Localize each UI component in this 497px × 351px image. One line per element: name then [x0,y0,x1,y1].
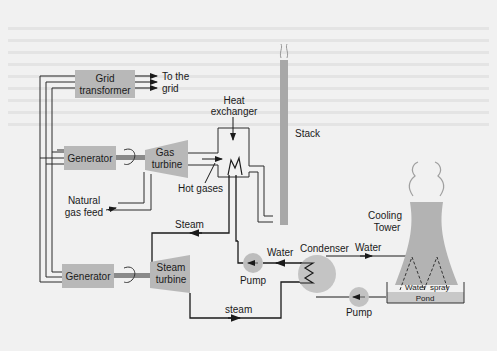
steam-plume-icon [409,162,444,196]
generator-top: Generator [64,146,116,170]
electrical-wires [40,76,75,282]
svg-text:turbine: turbine [152,159,183,170]
natural-gas-feed-label: Natural gas feed [65,195,103,218]
spray-label: spray [430,283,450,292]
cooling-tower: Cooling Tower [368,162,458,285]
svg-text:Heat: Heat [223,95,244,106]
water-label-left: Water [267,247,294,258]
steam-label-upper: Steam [175,219,204,230]
water-label-right: Water [355,242,382,253]
water-spray-label: Water [405,283,426,292]
svg-text:Tower: Tower [374,222,401,233]
svg-text:Pump: Pump [346,307,373,318]
svg-text:grid: grid [162,83,179,94]
condenser: Condenser [298,243,350,293]
svg-text:Pond: Pond [416,294,435,303]
natural-gas-feed-line [108,172,151,210]
svg-text:Condenser: Condenser [300,243,350,254]
svg-text:Grid: Grid [96,73,115,84]
shaft-top [116,155,146,160]
steam-turbine: Steam turbine [150,255,190,293]
svg-text:Pump: Pump [240,275,267,286]
stack [280,60,288,225]
generator-bottom: Generator [62,264,114,288]
hot-gases-label: Hot gases [178,183,223,194]
power-plant-diagram: Grid transformer To the grid Generator G… [0,0,497,351]
grid-transformer: Grid transformer [75,70,135,98]
heat-exchanger-coil [228,158,242,175]
svg-text:Steam: Steam [157,262,186,273]
pump-right: Pump [316,287,386,318]
to-grid-label: To the grid [162,71,190,94]
svg-text:Generator: Generator [67,153,113,164]
heat-exchanger-label: Heat exchanger [211,95,258,117]
svg-text:Gas: Gas [156,147,174,158]
steam-label-lower: steam [225,304,252,315]
svg-text:Natural: Natural [68,195,100,206]
shaft-bottom [114,273,152,278]
gas-turbine: Gas turbine [145,140,188,178]
pump-left: Pump [238,241,266,286]
svg-text:transformer: transformer [79,85,131,96]
heat-exchanger [188,128,273,222]
svg-text:Generator: Generator [65,271,111,282]
svg-text:turbine: turbine [156,274,187,285]
svg-text:To the: To the [162,71,190,82]
hot-gases-leader [205,163,215,183]
svg-text:gas feed: gas feed [65,207,103,218]
svg-text:Cooling: Cooling [368,210,402,221]
svg-text:exchanger: exchanger [211,106,258,117]
stack-smoke-icon [280,44,287,58]
to-grid-arrows [135,76,157,88]
stack-label: Stack [295,128,321,139]
